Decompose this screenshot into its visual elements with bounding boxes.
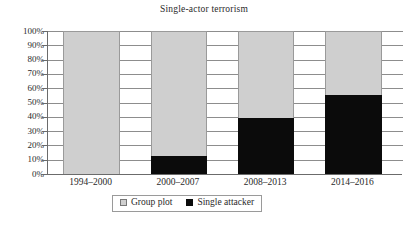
y-tick-label: 60% <box>0 84 44 93</box>
legend-label: Single attacker <box>197 198 254 208</box>
x-tick-label: 2000–2007 <box>134 177 221 187</box>
chart-legend: Group plotSingle attacker <box>112 195 262 212</box>
y-tick-label: 80% <box>0 55 44 64</box>
x-tick-label: 2014–2016 <box>309 177 396 187</box>
y-tick-label: 50% <box>0 98 44 107</box>
chart-title: Single-actor terrorism <box>0 4 408 14</box>
y-tick-label: 70% <box>0 69 44 78</box>
bar-segment-group-plot[interactable] <box>151 31 207 156</box>
bar-group[interactable] <box>238 31 294 174</box>
gridline-right-stub <box>397 160 403 161</box>
y-tick-label: 0% <box>0 170 44 179</box>
x-axis-line <box>41 174 402 175</box>
y-tick-label: 40% <box>0 112 44 121</box>
legend-item-single-attacker[interactable]: Single attacker <box>186 198 254 208</box>
bar-group[interactable] <box>151 31 207 174</box>
gridline-right-stub <box>397 103 403 104</box>
gridline-right-stub <box>397 88 403 89</box>
bar-segment-single-attacker[interactable] <box>238 118 294 174</box>
y-tick-label: 20% <box>0 141 44 150</box>
y-tick-label: 100% <box>0 27 44 36</box>
plot-area <box>47 31 396 174</box>
gridline-right-stub <box>397 45 403 46</box>
gridline-right-stub <box>397 131 403 132</box>
gridline-right-stub <box>397 31 403 32</box>
x-axis-labels: 1994–20002000–20072008–20132014–2016 <box>47 177 396 193</box>
bar-series-container <box>48 31 397 174</box>
y-axis-labels: 100%90%80%70%60%50%40%30%20%10%0% <box>0 31 44 174</box>
y-tick-label: 30% <box>0 127 44 136</box>
legend-item-group-plot[interactable]: Group plot <box>120 198 172 208</box>
bar-segment-single-attacker[interactable] <box>151 156 207 174</box>
gridline-right-stub <box>397 74 403 75</box>
bar-group[interactable] <box>63 31 119 174</box>
chart-figure: Single-actor terrorism 100%90%80%70%60%5… <box>0 0 408 225</box>
y-tick-label: 10% <box>0 155 44 164</box>
bar-segment-group-plot[interactable] <box>325 31 381 95</box>
bar-segment-single-attacker[interactable] <box>325 95 381 174</box>
bar-segment-group-plot[interactable] <box>63 31 119 174</box>
legend-label: Group plot <box>131 198 172 208</box>
bar-segment-group-plot[interactable] <box>238 31 294 118</box>
x-tick-label: 1994–2000 <box>47 177 134 187</box>
gridline-right-stub <box>397 145 403 146</box>
x-tick-label: 2008–2013 <box>222 177 309 187</box>
group-plot-swatch-icon <box>120 199 127 206</box>
single-attacker-swatch-icon <box>186 199 193 206</box>
bar-group[interactable] <box>325 31 381 174</box>
y-tick-label: 90% <box>0 41 44 50</box>
gridline-right-stub <box>397 117 403 118</box>
gridline-right-stub <box>397 60 403 61</box>
